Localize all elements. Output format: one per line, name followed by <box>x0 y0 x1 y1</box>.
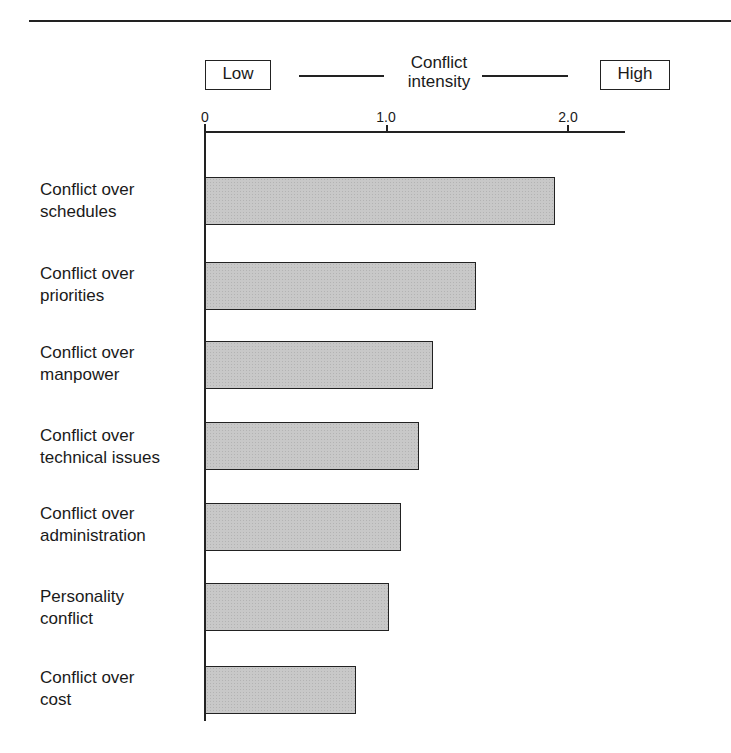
low-label-box: Low <box>205 60 271 90</box>
bar-technical-issues <box>205 422 419 470</box>
chart-title: Conflict intensity <box>384 53 494 91</box>
chart-title-line1: Conflict <box>384 53 494 72</box>
category-label-line1: Conflict over <box>40 179 205 201</box>
x-axis <box>205 131 625 133</box>
category-label-line1: Conflict over <box>40 263 205 285</box>
bar-personality <box>205 583 389 631</box>
category-label-line1: Conflict over <box>40 425 205 447</box>
x-tick-1 <box>386 125 388 131</box>
category-label-line1: Personality <box>40 586 205 608</box>
category-label: Conflict over cost <box>40 667 205 711</box>
category-label: Conflict over manpower <box>40 342 205 386</box>
tick-label-2: 2.0 <box>558 109 577 125</box>
high-label-box: High <box>600 60 670 90</box>
bar-administration <box>205 503 401 551</box>
bar-schedules <box>205 177 555 225</box>
category-label-line2: administration <box>40 525 205 547</box>
category-label-line1: Conflict over <box>40 503 205 525</box>
top-rule <box>29 20 731 22</box>
category-label: Conflict over administration <box>40 503 205 547</box>
category-label-line2: technical issues <box>40 447 205 469</box>
category-label-line1: Conflict over <box>40 342 205 364</box>
chart-title-line2: intensity <box>384 72 494 91</box>
tick-label-1: 1.0 <box>376 109 395 125</box>
category-label-line2: schedules <box>40 201 205 223</box>
title-dash-left <box>299 75 384 77</box>
category-label: Conflict over technical issues <box>40 425 205 469</box>
category-label-line1: Conflict over <box>40 667 205 689</box>
bar-priorities <box>205 262 476 310</box>
title-dash-right <box>482 75 568 77</box>
category-label: Personality conflict <box>40 586 205 630</box>
x-tick-2 <box>567 125 569 131</box>
category-label-line2: priorities <box>40 285 205 307</box>
category-label-line2: cost <box>40 689 205 711</box>
tick-label-0: 0 <box>201 109 209 125</box>
bar-cost <box>205 666 356 714</box>
bar-manpower <box>205 341 433 389</box>
category-label: Conflict over priorities <box>40 263 205 307</box>
category-label-line2: manpower <box>40 364 205 386</box>
category-label-line2: conflict <box>40 608 205 630</box>
category-label: Conflict over schedules <box>40 179 205 223</box>
